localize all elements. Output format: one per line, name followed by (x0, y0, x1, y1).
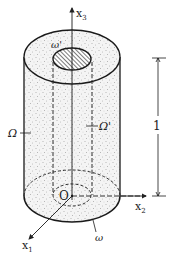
outer-domain-label: Ω (7, 127, 17, 140)
bottom-section-label: ω (95, 232, 103, 243)
x2-label: x2 (135, 200, 146, 215)
top-hole-label: ω' (51, 39, 62, 50)
origin-point (71, 195, 73, 197)
inner-domain-label: Ω' (98, 120, 111, 133)
x1-label: x1 (22, 239, 33, 254)
origin-label: O (59, 189, 69, 203)
omega-bottom-leader (93, 220, 96, 232)
hollow-cylinder-diagram: x3 x2 x1 O ω' Ω Ω' ω 1 (0, 0, 170, 262)
x3-label: x3 (76, 7, 87, 22)
dimension-value: 1 (153, 119, 161, 133)
